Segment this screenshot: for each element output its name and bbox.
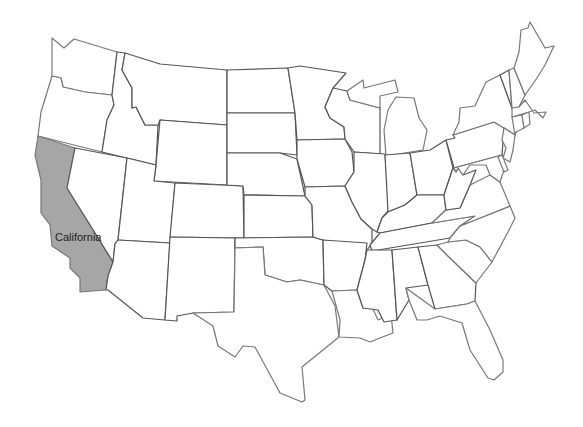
us-map: California xyxy=(0,0,583,427)
state-michigan-lower[interactable] xyxy=(384,97,427,156)
state-wyoming[interactable] xyxy=(154,120,227,185)
state-south-dakota[interactable] xyxy=(227,113,297,155)
state-north-dakota[interactable] xyxy=(227,68,295,113)
state-colorado[interactable] xyxy=(170,183,244,238)
california-label: California xyxy=(55,231,102,243)
state-maine[interactable] xyxy=(514,22,554,95)
state-arizona[interactable] xyxy=(106,240,170,320)
state-new-jersey[interactable] xyxy=(502,128,515,162)
state-iowa[interactable] xyxy=(297,139,354,187)
state-kansas[interactable] xyxy=(244,195,313,238)
state-new-mexico[interactable] xyxy=(165,237,235,321)
state-rhode-island[interactable] xyxy=(522,112,530,128)
